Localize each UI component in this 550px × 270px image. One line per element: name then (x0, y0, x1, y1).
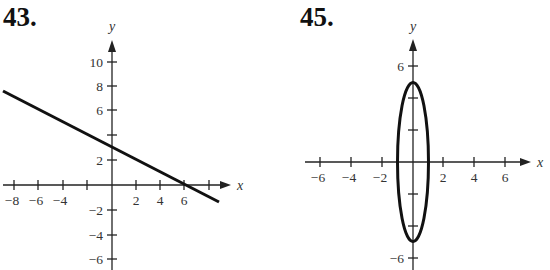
graph-45: x y 6 −6 −6 −4 −2 2 4 6 (0, 0, 550, 270)
x-tick-label: −6 (311, 170, 326, 185)
x-tick-label: −2 (373, 170, 387, 185)
y-tick-label: −6 (390, 251, 405, 266)
x-axis-arrow-icon (520, 158, 531, 166)
x-tick-label: 4 (471, 170, 478, 185)
y-axis-arrow-icon (409, 39, 417, 51)
y-tick-label: 6 (397, 59, 404, 74)
x-tick-label: −4 (342, 170, 357, 185)
x-axis-label: x (536, 155, 544, 170)
x-tick-label: 2 (440, 170, 447, 185)
x-tick-label: 6 (502, 170, 509, 185)
y-axis-label: y (408, 19, 417, 34)
